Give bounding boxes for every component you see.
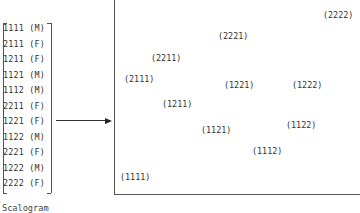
bracket-cap-bottom-right — [47, 193, 51, 194]
bracket-cap-top-right — [47, 23, 51, 24]
plot-point-label: (1211) — [162, 99, 192, 109]
plot-point-label: (1122) — [286, 120, 316, 130]
scalogram-row: 1111 (M) — [3, 23, 45, 33]
plot-point-label: (1222) — [292, 80, 322, 90]
scatter-plot-frame — [114, 0, 360, 195]
scalogram-row: 2221 (F) — [3, 147, 45, 157]
plot-point-label: (1221) — [224, 80, 254, 90]
scalogram-row: 1211 (F) — [3, 54, 45, 64]
scalogram-row: 1221 (F) — [3, 116, 45, 126]
bracket-cap-bottom-left — [3, 193, 7, 194]
plot-point-label: (2111) — [124, 74, 154, 84]
scalogram-row: 1112 (M) — [3, 85, 45, 95]
plot-point-label: (2211) — [151, 53, 181, 63]
plot-point-label: (2221) — [218, 31, 248, 41]
arrow-shaft — [56, 120, 108, 121]
plot-point-label: (1111) — [120, 172, 150, 182]
plot-point-label: (1121) — [201, 125, 231, 135]
arrow-head — [105, 118, 112, 124]
plot-point-label: (1112) — [252, 146, 282, 156]
scalogram-row: 2111 (F) — [3, 39, 45, 49]
scalogram-row: 1222 (M) — [3, 163, 45, 173]
scalogram-row: 1122 (M) — [3, 132, 45, 142]
scalogram-caption: Scalogram — [2, 203, 49, 213]
plot-point-label: (2222) — [323, 10, 353, 20]
scalogram-row: 2211 (F) — [3, 101, 45, 111]
scalogram-row: 1121 (M) — [3, 70, 45, 80]
scalogram-row: 2222 (F) — [3, 178, 45, 188]
